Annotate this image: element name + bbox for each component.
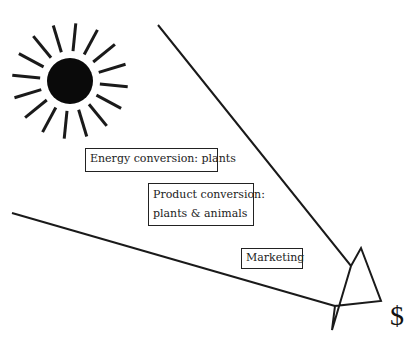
dollar-symbol: $	[390, 300, 404, 332]
energy-conversion-box: Energy conversion: plants	[85, 148, 218, 172]
product-conversion-line2: plants & animals	[153, 204, 249, 223]
marketing-box: Marketing	[241, 248, 303, 269]
marketing-label: Marketing	[246, 251, 304, 264]
sun-icon	[12, 23, 127, 138]
energy-conversion-label: Energy conversion: plants	[90, 152, 236, 165]
diagram-canvas	[0, 0, 419, 347]
upper-arrow	[158, 25, 381, 330]
product-conversion-line1: Product conversion:	[153, 185, 249, 204]
product-conversion-box: Product conversion: plants & animals	[148, 183, 254, 226]
